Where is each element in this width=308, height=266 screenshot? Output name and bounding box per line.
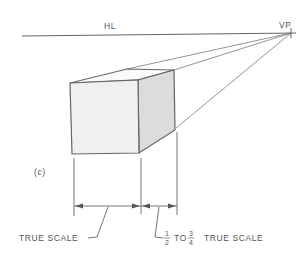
figure-label: (c) <box>34 167 46 177</box>
arrowhead-right <box>132 204 140 209</box>
fraction-1-numerator: 1 <box>165 230 169 237</box>
one-point-perspective-diagram: HL VP (c) TRUE SCALE 1 2 TO 3 4 TRUE SCA… <box>0 0 308 266</box>
horizon-label: HL <box>104 21 116 31</box>
arrowhead-right-2 <box>168 204 176 209</box>
horizon-line <box>22 33 296 36</box>
leader-true-scale <box>88 207 108 238</box>
fraction-2-numerator: 3 <box>189 230 193 237</box>
convergence-line-top-left <box>127 33 291 69</box>
leader-foreshortened <box>155 207 163 238</box>
fraction-1-denominator: 2 <box>165 239 169 246</box>
arrowhead-left-2 <box>142 204 150 209</box>
true-scale-label: TRUE SCALE <box>19 233 78 243</box>
foreshortened-scale-label: TRUE SCALE <box>204 233 263 243</box>
cube-front-face <box>70 80 139 154</box>
fraction-2-denominator: 4 <box>189 239 193 246</box>
cube-side-face <box>138 70 175 153</box>
vanishing-point-label: VP <box>279 20 292 30</box>
convergence-line-top-right <box>174 33 291 70</box>
arrowhead-left <box>75 204 83 209</box>
convergence-line-bottom-right <box>176 33 291 128</box>
to-label: TO <box>174 233 187 243</box>
